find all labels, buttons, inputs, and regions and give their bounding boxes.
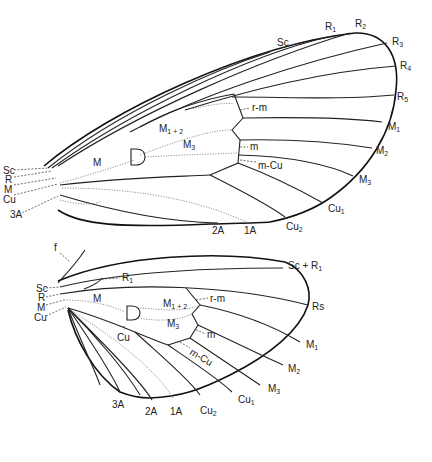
vein-Cu <box>60 175 210 185</box>
label-hind-rm: r-m <box>210 293 225 304</box>
vein-hind-anal-1 <box>68 308 140 395</box>
vein-R4 <box>185 66 396 110</box>
leader-hind-Sc <box>46 287 60 288</box>
label-Cu1: Cu1 <box>328 203 345 215</box>
frenulum <box>58 250 85 283</box>
leader-hind-Cu <box>46 307 66 316</box>
label-hind-M: M <box>93 293 101 304</box>
label-hind-base-Cu: Cu <box>34 312 47 323</box>
label-M12: M1 + 2 <box>159 123 183 135</box>
vein-R2 <box>58 33 350 166</box>
forewing-labels: Sc R1 R2 R3 R4 R5 M1 M2 M3 Cu1 Cu2 2A 1A… <box>3 18 411 236</box>
vein-hind-3A <box>68 308 100 385</box>
leader-3A <box>22 196 58 213</box>
leader-hind-mCu <box>180 342 190 348</box>
label-hind-Cu1: Cu1 <box>238 394 255 406</box>
vein-Rs-stem <box>140 94 234 127</box>
label-Cu2: Cu2 <box>286 221 303 233</box>
label-hind-m: m <box>207 329 215 340</box>
leader-hind-m <box>196 330 206 334</box>
vein-hind-2A <box>68 308 120 392</box>
label-R3: R3 <box>392 36 403 48</box>
leader-R <box>14 171 52 177</box>
vein-Cu2 <box>210 175 285 217</box>
label-Sc: Sc <box>277 37 289 48</box>
vein-discal-closure <box>210 94 243 175</box>
label-hind-Cu: Cu <box>117 332 130 343</box>
hindwing-outer-margin <box>150 262 309 398</box>
label-M1: M1 <box>388 121 400 133</box>
vein-R5 <box>232 95 394 98</box>
label-2A: 2A <box>212 225 225 236</box>
label-hind-R1: R1 <box>122 272 133 284</box>
label-base-3A: 3A <box>10 209 23 220</box>
leader-mCu <box>240 160 256 162</box>
label-hind-mCu: m-Cu <box>188 346 215 368</box>
hindwing-inner-margin <box>68 310 150 398</box>
vein-M2 <box>240 140 372 148</box>
leader-hind-rm <box>196 298 208 300</box>
label-f: f <box>54 242 57 253</box>
leader-f <box>60 253 70 262</box>
leader-rm <box>240 108 250 110</box>
label-rm: r-m <box>252 102 267 113</box>
label-hind-3A: 3A <box>112 399 125 410</box>
label-R2: R2 <box>355 18 366 30</box>
leader-M <box>14 178 56 185</box>
label-1A: 1A <box>244 225 257 236</box>
vein-2A <box>60 195 218 223</box>
vein-M1 <box>243 118 382 122</box>
label-mCu: m-Cu <box>258 160 282 171</box>
label-M3-edge: M3 <box>359 174 371 186</box>
label-hind-2A: 2A <box>145 406 158 417</box>
leader-Sc <box>14 168 48 170</box>
label-m: m <box>250 141 258 152</box>
vein-Sc-R1 <box>60 268 283 287</box>
vein-Sc <box>48 52 270 168</box>
label-base-Cu: Cu <box>3 194 16 205</box>
leader-hind-R <box>46 294 60 297</box>
label-R1: R1 <box>325 21 336 33</box>
label-hind-1A: 1A <box>170 406 183 417</box>
vein-hind-M3-dotted <box>138 314 192 320</box>
forewing-discal-spot <box>131 149 145 165</box>
vein-hind-discal-closure <box>168 288 200 345</box>
label-hind-M2: M2 <box>288 363 300 375</box>
leader-Cu <box>14 184 58 195</box>
label-M3: M3 <box>183 139 195 151</box>
label-hind-Cu2: Cu2 <box>200 405 217 417</box>
vein-M3 <box>238 155 353 176</box>
label-hind-M3: M3 <box>167 318 179 330</box>
forewing-inner-margin <box>58 210 270 226</box>
label-hind-M12: M1 + 2 <box>163 298 187 310</box>
leader-hind-M <box>46 300 64 305</box>
label-R4: R4 <box>400 60 411 72</box>
hindwing-discal-spot <box>127 306 140 320</box>
label-ScR1: Sc + R1 <box>288 260 322 272</box>
label-hind-M3-edge: M3 <box>268 383 280 395</box>
label-hind-M1: M1 <box>306 339 318 351</box>
forewing-outer-margin <box>270 33 397 222</box>
label-M: M <box>93 157 101 168</box>
vein-hind-Cu2 <box>135 332 200 395</box>
forewing <box>14 33 397 226</box>
wing-venation-diagram: Sc R1 R2 R3 R4 R5 M1 M2 M3 Cu1 Cu2 2A 1A… <box>0 0 432 462</box>
vein-M3-cell <box>145 153 238 157</box>
label-Rs: Rs <box>312 301 324 312</box>
label-R5: R5 <box>397 91 408 103</box>
label-M2: M2 <box>376 145 388 157</box>
